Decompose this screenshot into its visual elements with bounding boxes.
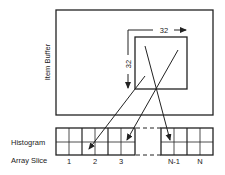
histogram-left-group (56, 128, 135, 155)
item-buffer-label: Item Buffer (43, 43, 52, 80)
slice-label-1: 1 (67, 157, 71, 166)
tile-rect (135, 37, 187, 89)
arrow-to-slice-n-1 (145, 46, 170, 140)
slice-label-3: 3 (119, 157, 123, 166)
tile-width-label: 32 (160, 26, 168, 35)
histogram-right-group (161, 128, 213, 155)
slice-label-2: 2 (93, 157, 97, 166)
diagram-canvas: Item Buffer 32 32 Histogram Array Slice … (0, 0, 225, 175)
slice-label-n: N (197, 157, 202, 166)
arrow-to-slice-2 (89, 76, 145, 149)
tile-height-label: 32 (124, 60, 133, 68)
array-slice-label: Array Slice (11, 156, 47, 165)
histogram-label: Histogram (11, 138, 45, 147)
slice-label-n-1: N-1 (168, 157, 180, 166)
